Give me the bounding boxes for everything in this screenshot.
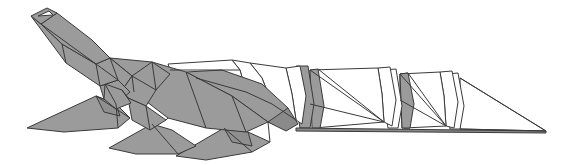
origami-crocodile-illustration xyxy=(0,0,566,165)
origami-figure-canvas: Origami Crocodile crocodile flat-shaded … xyxy=(0,0,566,165)
